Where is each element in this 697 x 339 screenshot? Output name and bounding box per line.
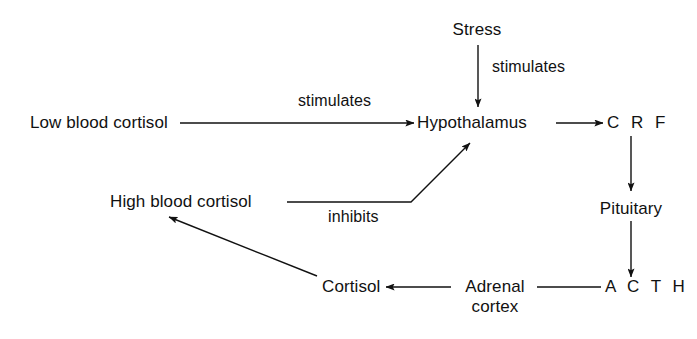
node-stress: Stress: [453, 20, 502, 40]
node-crf: C R F: [607, 113, 669, 133]
edge-label-high-cortisol-inhibits: inhibits: [328, 207, 379, 226]
node-high-blood-cortisol: High blood cortisol: [110, 192, 252, 212]
edge-cortisol-to-high-blood-cortisol: [169, 217, 317, 276]
edge-label-low-cortisol-stimulates: stimulates: [298, 91, 371, 110]
node-adrenal-cortex-line1: Adrenal: [465, 277, 524, 297]
node-adrenal-cortex: Adrenal cortex: [465, 277, 524, 317]
hpa-axis-diagram: Stress Low blood cortisol Hypothalamus C…: [0, 0, 697, 339]
edge-high-blood-cortisol-to-hypothalamus: [287, 143, 470, 202]
node-acth: A C T H: [605, 277, 688, 297]
node-low-blood-cortisol: Low blood cortisol: [30, 113, 168, 133]
node-adrenal-cortex-line2: cortex: [465, 297, 524, 317]
node-pituitary: Pituitary: [600, 199, 662, 219]
node-cortisol: Cortisol: [322, 277, 380, 297]
node-hypothalamus: Hypothalamus: [417, 113, 527, 133]
edge-label-stress-stimulates: stimulates: [492, 57, 565, 76]
